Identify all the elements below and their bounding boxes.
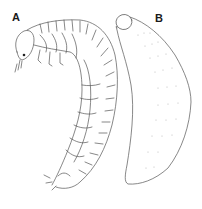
- larva-a-dorsal-outline: [27, 20, 117, 189]
- illustration-drawing: [0, 0, 202, 209]
- larva-a-ventral-outline: [34, 45, 82, 185]
- larva-b-head: [114, 13, 133, 32]
- larva-b-drawing: [114, 13, 191, 184]
- larva-illustration-figure: A B: [0, 0, 202, 209]
- larva-b-body-outline: [116, 17, 191, 184]
- larva-a-drawing: [15, 20, 117, 190]
- larva-a-legs: [38, 50, 63, 66]
- panel-label-a: A: [12, 12, 20, 23]
- panel-label-b: B: [155, 13, 163, 24]
